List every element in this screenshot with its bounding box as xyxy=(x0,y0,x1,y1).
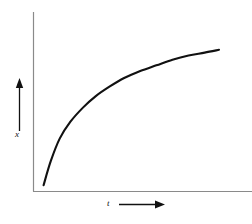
x-axis-label: t xyxy=(107,199,110,208)
y-axis-label: x xyxy=(15,130,19,139)
x-axis-arrow-icon xyxy=(119,201,165,209)
plot-area xyxy=(0,0,252,224)
chart-figure: x t xyxy=(0,0,252,224)
y-axis-arrow-icon xyxy=(16,78,23,131)
data-series-curve xyxy=(44,50,219,185)
